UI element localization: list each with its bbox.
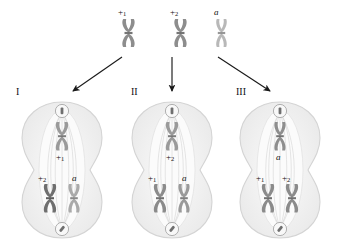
- figure-canvas: +1 +2 a: [0, 0, 338, 247]
- cell-II: +2 +1 a: [124, 100, 220, 240]
- cell-III-label-bottom-left: +1: [256, 174, 264, 184]
- cell-III-label-top: a: [276, 153, 281, 162]
- cell-III-label-bottom-right: +2: [282, 174, 290, 184]
- cell-I-label-bottom-right: a: [72, 174, 77, 183]
- cell-numeral-II: II: [131, 87, 138, 97]
- cell-numeral-I: I: [16, 87, 19, 97]
- cell-II-label-bottom-right: a: [182, 174, 187, 183]
- cell-I-label-top: +1: [56, 153, 64, 163]
- cell-numeral-III: III: [236, 87, 246, 97]
- cell-I-label-bottom-left: +2: [38, 174, 46, 184]
- cell-II-label-top: +2: [166, 153, 174, 163]
- cell-I: +1 +2 a: [14, 100, 110, 240]
- cell-III: a +1 +2: [232, 100, 328, 240]
- cell-II-label-bottom-left: +1: [148, 174, 156, 184]
